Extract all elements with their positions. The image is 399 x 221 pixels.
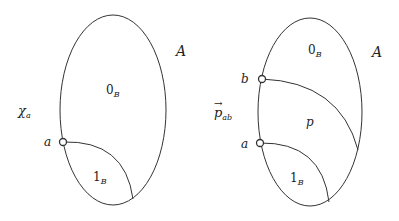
region-zero-label-left: 0B bbox=[106, 83, 120, 99]
point-a-marker-left bbox=[60, 139, 67, 146]
function-label-right: → pab bbox=[214, 98, 232, 122]
function-label-left: χa bbox=[17, 103, 31, 120]
point-b-marker-right bbox=[259, 76, 266, 83]
set-a-ellipse-left bbox=[60, 15, 166, 205]
region-middle-label-right: p bbox=[306, 115, 314, 129]
point-b-label-right: b bbox=[241, 72, 249, 86]
left-diagram: A 0B 1B χa a bbox=[17, 15, 186, 205]
right-diagram: A 0B p 1B → pab b a bbox=[214, 18, 382, 206]
point-a-label-right: a bbox=[241, 137, 248, 151]
svg-text:pab: pab bbox=[214, 105, 232, 122]
region-one-label-left: 1B bbox=[93, 170, 107, 186]
region-zero-label-right: 0B bbox=[308, 43, 322, 59]
diagram-canvas: A 0B 1B χa a A 0B p 1B → pab b bbox=[0, 0, 399, 221]
set-label-right: A bbox=[370, 44, 382, 60]
point-a-marker-right bbox=[257, 140, 264, 147]
set-label-left: A bbox=[174, 43, 186, 59]
region-one-label-right: 1B bbox=[290, 171, 304, 187]
point-a-label-left: a bbox=[44, 135, 51, 149]
